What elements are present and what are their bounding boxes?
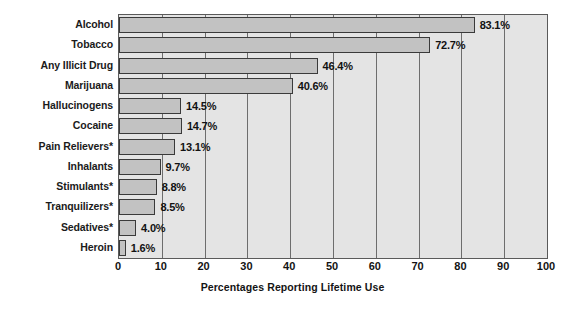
bar bbox=[119, 17, 475, 33]
bar bbox=[119, 78, 293, 94]
bar-row: 1.6% bbox=[119, 238, 547, 258]
bar-value-label: 83.1% bbox=[480, 16, 510, 34]
category-axis-labels: AlcoholTobaccoAny Illicit DrugMarijuanaH… bbox=[0, 14, 113, 257]
x-tick-label: 70 bbox=[411, 260, 423, 272]
x-tick-label: 90 bbox=[497, 260, 509, 272]
x-tick-label: 0 bbox=[115, 260, 121, 272]
bar-row: 14.7% bbox=[119, 116, 547, 136]
bar-value-label: 1.6% bbox=[131, 239, 155, 257]
bar-value-label: 8.5% bbox=[160, 198, 184, 216]
category-label: Any Illicit Drug bbox=[0, 55, 113, 75]
category-label: Stimulants* bbox=[0, 176, 113, 196]
x-tick-label: 40 bbox=[283, 260, 295, 272]
bar-row: 8.8% bbox=[119, 177, 547, 197]
x-tick-label: 50 bbox=[326, 260, 338, 272]
bar-value-label: 13.1% bbox=[180, 138, 210, 156]
bar-value-label: 9.7% bbox=[166, 158, 190, 176]
category-label: Heroin bbox=[0, 237, 113, 257]
bar-row: 14.5% bbox=[119, 96, 547, 116]
bar bbox=[119, 199, 155, 215]
bar-value-label: 46.4% bbox=[323, 57, 353, 75]
bar bbox=[119, 58, 318, 74]
bar-row: 8.5% bbox=[119, 197, 547, 217]
bar-row: 13.1% bbox=[119, 137, 547, 157]
x-tick-label: 10 bbox=[155, 260, 167, 272]
bar-value-label: 4.0% bbox=[141, 219, 165, 237]
x-tick-label: 20 bbox=[197, 260, 209, 272]
category-label: Alcohol bbox=[0, 14, 113, 34]
bar bbox=[119, 139, 175, 155]
category-label: Sedatives* bbox=[0, 217, 113, 237]
bar bbox=[119, 179, 157, 195]
bar bbox=[119, 118, 182, 134]
bar bbox=[119, 37, 430, 53]
category-label: Hallucinogens bbox=[0, 95, 113, 115]
bar-value-label: 72.7% bbox=[435, 36, 465, 54]
x-axis-tick-labels: 0102030405060708090100 bbox=[0, 260, 585, 278]
category-label: Tobacco bbox=[0, 34, 113, 54]
bar-value-label: 14.7% bbox=[187, 117, 217, 135]
category-label: Pain Relievers* bbox=[0, 136, 113, 156]
x-tick-label: 80 bbox=[454, 260, 466, 272]
category-label: Inhalants bbox=[0, 156, 113, 176]
bar-row: 9.7% bbox=[119, 157, 547, 177]
bar-row: 72.7% bbox=[119, 35, 547, 55]
bar bbox=[119, 220, 136, 236]
bar bbox=[119, 159, 161, 175]
bar bbox=[119, 240, 126, 256]
bar-row: 46.4% bbox=[119, 56, 547, 76]
bar-chart: AlcoholTobaccoAny Illicit DrugMarijuanaH… bbox=[0, 0, 585, 309]
bar-value-label: 14.5% bbox=[186, 97, 216, 115]
x-tick-label: 100 bbox=[537, 260, 555, 272]
category-label: Marijuana bbox=[0, 75, 113, 95]
bar-row: 40.6% bbox=[119, 76, 547, 96]
bar-value-label: 8.8% bbox=[162, 178, 186, 196]
x-axis-title: Percentages Reporting Lifetime Use bbox=[0, 281, 585, 293]
plot-area: 83.1%72.7%46.4%40.6%14.5%14.7%13.1%9.7%8… bbox=[118, 14, 548, 259]
bar-value-label: 40.6% bbox=[298, 77, 328, 95]
x-tick-label: 30 bbox=[240, 260, 252, 272]
bar-row: 83.1% bbox=[119, 15, 547, 35]
category-label: Cocaine bbox=[0, 115, 113, 135]
x-tick-label: 60 bbox=[369, 260, 381, 272]
bar-row: 4.0% bbox=[119, 218, 547, 238]
category-label: Tranquilizers* bbox=[0, 196, 113, 216]
bar bbox=[119, 98, 181, 114]
